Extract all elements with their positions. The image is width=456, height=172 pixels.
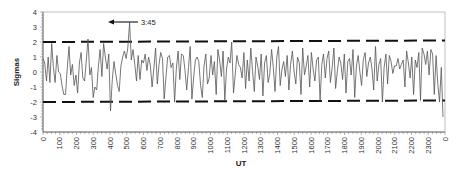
y-tick-label: 3 [33, 23, 37, 32]
lower-threshold-line [43, 101, 445, 103]
x-tick-label: 800 [173, 137, 182, 150]
y-axis-title: Sigmas [12, 57, 21, 86]
plot-area-frame [43, 12, 445, 132]
x-tick-label: 900 [189, 137, 198, 150]
peak-annotation: 3:45 [108, 18, 156, 27]
y-tick-label: -2 [30, 98, 37, 107]
x-tick-label: 1900 [357, 137, 366, 154]
x-tick-label: 1400 [273, 137, 282, 154]
x-tick-label: 400 [106, 137, 115, 150]
x-tick-label: 1700 [323, 137, 332, 154]
x-tick-label: 1600 [307, 137, 316, 154]
x-tick-label: 1300 [256, 137, 265, 154]
x-tick-label: 1500 [290, 137, 299, 154]
sigma-line-chart: Sigmas 43210-1-2-3-4 0100200300400500600… [0, 0, 456, 172]
y-axis-ticks: 43210-1-2-3-4 [30, 8, 43, 137]
x-axis-ticks: 0100200300400500600700800900100011001200… [39, 132, 450, 154]
upper-threshold-line [43, 41, 445, 43]
x-tick-label: 0 [441, 137, 450, 141]
x-tick-label: 0 [39, 137, 48, 141]
x-tick-label: 100 [55, 137, 64, 150]
x-tick-label: 1000 [206, 137, 215, 154]
y-tick-label: -1 [30, 83, 37, 92]
y-axis-label: Sigmas [12, 57, 21, 86]
y-tick-label: -4 [30, 128, 37, 137]
x-tick-label: 600 [139, 137, 148, 150]
x-tick-label: 1800 [340, 137, 349, 154]
y-tick-label: 2 [33, 38, 37, 47]
x-tick-label: 300 [89, 137, 98, 150]
y-tick-label: 4 [33, 8, 37, 17]
x-axis-label: UT [236, 159, 247, 168]
sigma-series-line [43, 23, 443, 118]
y-tick-label: 0 [33, 68, 37, 77]
x-tick-label: 200 [72, 137, 81, 150]
x-tick-label: 2000 [374, 137, 383, 154]
arrow-head-icon [108, 20, 114, 25]
x-tick-label: 2200 [407, 137, 416, 154]
x-tick-label: 2300 [424, 137, 433, 154]
annotation-label: 3:45 [141, 18, 156, 27]
y-tick-label: -3 [30, 113, 37, 122]
x-tick-label: 1100 [223, 137, 232, 153]
x-tick-label: 500 [122, 137, 131, 150]
x-tick-label: 1200 [240, 137, 249, 154]
x-tick-label: 2100 [390, 137, 399, 154]
x-tick-label: 700 [156, 137, 165, 150]
y-tick-label: 1 [33, 53, 37, 62]
